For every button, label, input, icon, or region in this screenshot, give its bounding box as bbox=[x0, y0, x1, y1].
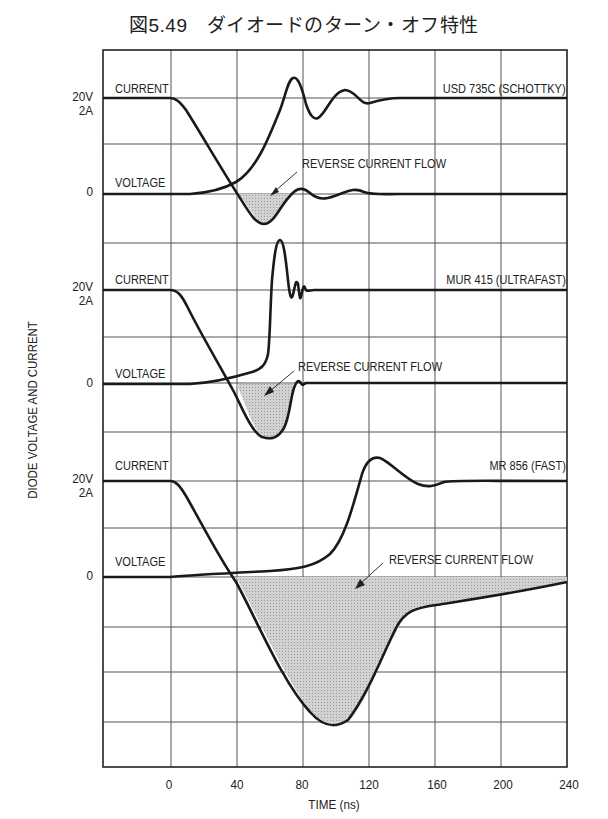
voltage-label: VOLTAGE bbox=[115, 176, 165, 190]
level-label-panel-3: 20V 2A bbox=[57, 472, 93, 500]
reverse-current-annotation: REVERSE CURRENT FLOW bbox=[389, 553, 533, 567]
device-label-fast: MR 856 (FAST) bbox=[490, 459, 566, 473]
panel-fast bbox=[103, 458, 567, 727]
x-axis-title: TIME (ns) bbox=[308, 797, 359, 812]
level-current-label: 2A bbox=[57, 486, 93, 500]
x-tick: 240 bbox=[559, 777, 579, 792]
level-current-label: 2A bbox=[57, 294, 93, 308]
plot-area bbox=[0, 0, 608, 819]
level-voltage-label: 20V bbox=[57, 90, 93, 104]
x-tick: 0 bbox=[166, 777, 173, 792]
level-current-label: 2A bbox=[57, 104, 93, 118]
voltage-label: VOLTAGE bbox=[115, 367, 165, 381]
level-label-panel-1: 20V 2A bbox=[57, 90, 93, 118]
panel-schottky bbox=[103, 78, 567, 224]
x-tick: 40 bbox=[230, 777, 243, 792]
x-tick: 200 bbox=[493, 777, 513, 792]
device-label-ultrafast: MUR 415 (ULTRAFAST) bbox=[446, 273, 566, 287]
reverse-current-annotation: REVERSE CURRENT FLOW bbox=[302, 157, 446, 171]
x-tick: 80 bbox=[295, 777, 308, 792]
level-voltage-label: 20V bbox=[57, 280, 93, 294]
zero-label-panel-2: 0 bbox=[57, 376, 93, 390]
device-label-schottky: USD 735C (SCHOTTKY) bbox=[443, 82, 566, 96]
current-label: CURRENT bbox=[115, 82, 169, 96]
x-tick: 120 bbox=[359, 777, 379, 792]
zero-label-panel-3: 0 bbox=[57, 569, 93, 583]
current-label: CURRENT bbox=[115, 459, 169, 473]
current-label: CURRENT bbox=[115, 273, 169, 287]
level-voltage-label: 20V bbox=[57, 472, 93, 486]
zero-label-panel-1: 0 bbox=[57, 185, 93, 199]
reverse-current-area bbox=[236, 577, 567, 727]
voltage-label: VOLTAGE bbox=[115, 555, 165, 569]
level-label-panel-2: 20V 2A bbox=[57, 280, 93, 308]
panel-ultrafast bbox=[103, 240, 567, 440]
y-axis-title: DIODE VOLTAGE AND CURRENT bbox=[25, 321, 40, 499]
x-tick: 160 bbox=[427, 777, 447, 792]
reverse-current-annotation: REVERSE CURRENT FLOW bbox=[298, 360, 442, 374]
